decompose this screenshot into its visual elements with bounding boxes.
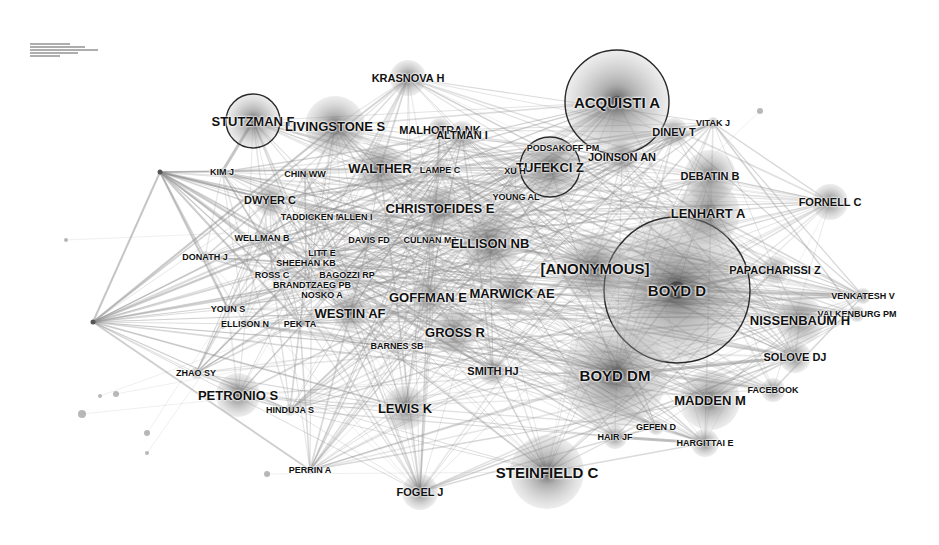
node-label-gefen-d[interactable]: GEFEN D	[636, 423, 676, 432]
node-label-walther[interactable]: WALTHER	[348, 162, 411, 175]
node-label-petronio-s[interactable]: PETRONIO S	[198, 389, 278, 402]
node-label-krasnova-h[interactable]: KRASNOVA H	[372, 73, 445, 84]
node-label-debatin-b[interactable]: DEBATIN B	[680, 171, 739, 182]
node-label-donath-j[interactable]: DONATH J	[182, 253, 227, 262]
minor-node	[98, 394, 102, 398]
node-label-lenhart-a[interactable]: LENHART A	[671, 207, 746, 220]
node-label-ellison-n[interactable]: ELLISON N	[221, 320, 269, 329]
node-label-altman-i[interactable]: ALTMAN I	[436, 130, 488, 141]
node-label-davis-fd[interactable]: DAVIS FD	[348, 236, 389, 245]
minor-node	[145, 451, 149, 455]
node-label-youn-s[interactable]: YOUN S	[211, 305, 246, 314]
node-label-acquisti-a[interactable]: ACQUISTI A	[574, 95, 660, 110]
node-label-hargittai-e[interactable]: HARGITTAI E	[677, 439, 734, 448]
node-label-lampe-c[interactable]: LAMPE C	[420, 166, 461, 175]
node-label-fogel-j[interactable]: FOGEL J	[397, 487, 444, 498]
node-label-papacharissi-z[interactable]: PAPACHARISSI Z	[729, 265, 820, 276]
legend-line	[30, 49, 98, 51]
node-label-dinev-t[interactable]: DINEV T	[652, 127, 695, 138]
node-label-kim-j[interactable]: KIM J	[210, 168, 234, 177]
node-label-pek-ta[interactable]: PEK TA	[284, 320, 316, 329]
node-label-solove-dj[interactable]: SOLOVE DJ	[764, 352, 827, 363]
node-label-gross-r[interactable]: GROSS R	[425, 326, 485, 339]
node-label-marwick-ae[interactable]: MARWICK AE	[469, 287, 554, 300]
minor-node	[64, 238, 68, 242]
node-label-fornell-c[interactable]: FORNELL C	[799, 197, 862, 208]
node-label-hinduja-s[interactable]: HINDUJA S	[266, 406, 314, 415]
legend	[30, 42, 100, 64]
node-label-bagozzi-rp[interactable]: BAGOZZI RP	[319, 271, 375, 280]
node-label-zhao-sy[interactable]: ZHAO SY	[176, 369, 216, 378]
node-label-nissenbaum-h[interactable]: NISSENBAUM H	[750, 314, 850, 327]
minor-node	[113, 391, 119, 397]
node-label-goffman-e[interactable]: GOFFMAN E	[389, 291, 467, 304]
node-label-sheehan-kb[interactable]: SHEEHAN KB	[276, 259, 336, 268]
node-label-culnan-mj[interactable]: CULNAN MJ	[404, 236, 457, 245]
node-label-steinfield-c[interactable]: STEINFIELD C	[496, 465, 599, 480]
node-label-boyd-dm[interactable]: BOYD DM	[580, 368, 651, 383]
minor-node	[78, 410, 86, 418]
node-label-dwyer-c[interactable]: DWYER C	[244, 195, 296, 206]
hub-node	[158, 170, 163, 175]
node-label-ross-c[interactable]: ROSS C	[255, 271, 290, 280]
node-label-taddicken-m[interactable]: TADDICKEN M	[281, 213, 343, 222]
node-label-perrin-a[interactable]: PERRIN A	[289, 466, 332, 475]
node-label-vitak-j[interactable]: VITAK J	[696, 119, 730, 128]
node-label-lewis-k[interactable]: LEWIS K	[378, 402, 432, 415]
node-label-allen-i[interactable]: ALLEN I	[338, 213, 373, 222]
node-label-boyd-d[interactable]: BOYD D	[648, 283, 706, 298]
node-label-madden-m[interactable]: MADDEN M	[674, 394, 746, 407]
node-label-anonymous[interactable]: [ANONYMOUS]	[540, 261, 649, 276]
node-label-hair-jf[interactable]: HAIR JF	[597, 433, 632, 442]
node-label-facebook[interactable]: FACEBOOK	[747, 386, 798, 395]
node-label-smith-hj[interactable]: SMITH HJ	[467, 366, 518, 377]
minor-node	[264, 471, 270, 477]
node-label-westin-af[interactable]: WESTIN AF	[314, 307, 385, 320]
hub-node	[91, 320, 96, 325]
node-label-wellman-b[interactable]: WELLMAN B	[235, 234, 290, 243]
legend-line	[30, 43, 70, 45]
node-label-litt-e[interactable]: LITT E	[308, 249, 336, 258]
legend-line	[30, 55, 60, 57]
node-label-nosko-a[interactable]: NOSKO A	[301, 291, 343, 300]
node-label-joinson-an[interactable]: JOINSON AN	[588, 152, 656, 163]
node-label-livingstone-s[interactable]: LIVINGSTONE S	[285, 120, 385, 133]
legend-line	[30, 46, 85, 48]
node-label-christofides-e[interactable]: CHRISTOFIDES E	[386, 202, 495, 215]
minor-node	[757, 108, 763, 114]
node-label-chin-ww[interactable]: CHIN WW	[284, 170, 326, 179]
node-label-ellison-nb[interactable]: ELLISON NB	[451, 237, 530, 250]
node-label-stutzman-f[interactable]: STUTZMAN F	[211, 115, 294, 128]
node-label-young-al[interactable]: YOUNG AL	[492, 193, 539, 202]
minor-node	[144, 430, 150, 436]
node-label-xu-h[interactable]: XU H	[504, 167, 526, 176]
node-label-barnes-sb[interactable]: BARNES SB	[370, 342, 423, 351]
legend-line	[30, 52, 78, 54]
node-label-venkatesh-v[interactable]: VENKATESH V	[831, 292, 894, 301]
node-label-brandtzaeg-pb[interactable]: BRANDTZAEG PB	[273, 281, 351, 290]
